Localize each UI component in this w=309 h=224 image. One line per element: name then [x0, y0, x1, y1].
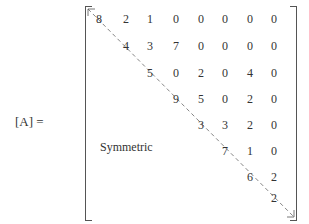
matrix-cell: 8: [92, 12, 106, 26]
matrix-cell: 0: [267, 144, 281, 158]
matrix-cell: 0: [267, 39, 281, 53]
matrix-cell: 3: [194, 118, 208, 132]
matrix-cell: 2: [267, 170, 281, 184]
matrix-cell: 0: [218, 66, 232, 80]
matrix-cell: 4: [119, 39, 133, 53]
matrix-cell: 0: [218, 12, 232, 26]
symmetric-label: Symmetric: [100, 140, 153, 154]
matrix-cell: 3: [218, 118, 232, 132]
matrix-cell: 0: [194, 39, 208, 53]
matrix-cell: 0: [218, 92, 232, 106]
matrix-cell: 0: [194, 12, 208, 26]
matrix-cell: 2: [119, 12, 133, 26]
matrix-cell: 7: [218, 144, 232, 158]
matrix-cell: 2: [267, 191, 281, 205]
matrix-cell: 0: [169, 66, 183, 80]
diagonal-dashed-arrow-icon: [0, 0, 309, 224]
matrix-cell: 5: [143, 66, 157, 80]
matrix-cell: 0: [267, 12, 281, 26]
matrix-cell: 4: [243, 66, 257, 80]
matrix-cell: 0: [243, 39, 257, 53]
matrix-cell: 9: [169, 92, 183, 106]
matrix-cell: 2: [243, 92, 257, 106]
matrix-cell: 2: [243, 118, 257, 132]
matrix-cell: 0: [267, 92, 281, 106]
matrix-cell: 5: [194, 92, 208, 106]
matrix-cell: 1: [143, 12, 157, 26]
matrix-cell: 2: [194, 66, 208, 80]
matrix-cell: 7: [169, 39, 183, 53]
matrix-cell: 0: [243, 12, 257, 26]
matrix-cell: 0: [267, 66, 281, 80]
matrix-cell: 6: [243, 170, 257, 184]
matrix-cell: 0: [267, 118, 281, 132]
matrix-cell: 1: [243, 144, 257, 158]
matrix-cell: 0: [169, 12, 183, 26]
matrix-cell: 3: [143, 39, 157, 53]
matrix-cell: 0: [218, 39, 232, 53]
